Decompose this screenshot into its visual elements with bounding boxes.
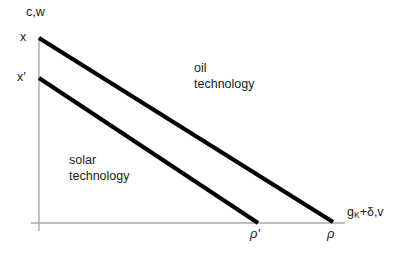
y-intercept-label-x-prime: x′: [17, 70, 26, 86]
region-label-oil-technology: oil technology: [194, 61, 254, 92]
y-intercept-label-x: x: [20, 30, 26, 46]
x-axis-title-subscript: K: [354, 210, 360, 220]
region-label-solar-line1: solar: [69, 153, 129, 169]
solar-technology-line: [39, 78, 258, 223]
plot-area: [0, 0, 405, 254]
y-axis-title: c,w: [26, 5, 45, 21]
x-axis-title-main: g: [347, 205, 354, 219]
oil-technology-line: [39, 38, 333, 222]
region-label-oil-line2: technology: [194, 77, 254, 93]
region-label-solar-technology: solar technology: [69, 153, 129, 184]
x-axis-title-rest: +δ,v: [360, 205, 384, 219]
region-label-solar-line2: technology: [69, 169, 129, 185]
x-axis-title: gK+δ,v: [347, 205, 384, 221]
x-intercept-label-rho: ρ: [327, 226, 334, 242]
region-label-oil-line1: oil: [194, 61, 254, 77]
technology-frontier-figure: c,w gK+δ,v x x′ ρ′ ρ oil technology sola…: [0, 0, 405, 254]
x-intercept-label-rho-prime: ρ′: [250, 226, 260, 242]
